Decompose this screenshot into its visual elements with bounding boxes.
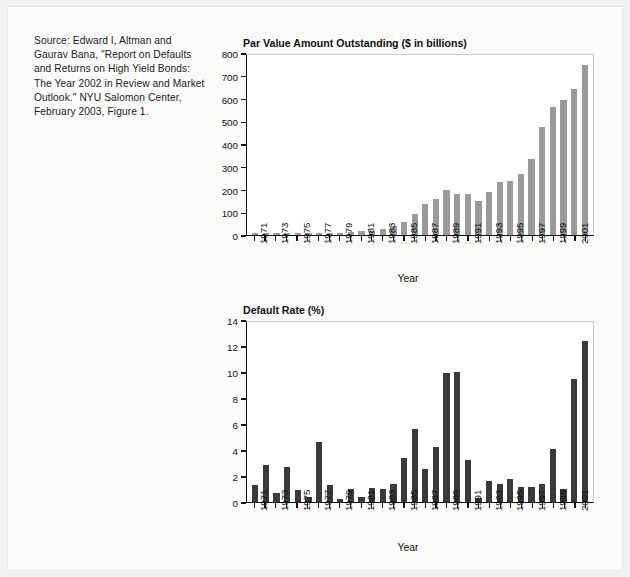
- x-tick-mark: [510, 236, 511, 241]
- x-tick-mark: [286, 503, 287, 508]
- bar-1997: [528, 159, 534, 235]
- bar-slot: [399, 322, 410, 502]
- x-tick-mark: [307, 503, 308, 508]
- bar-slot: [494, 55, 505, 235]
- chart-title-bottom: Default Rate (%): [243, 304, 324, 316]
- bar-slot: [473, 322, 484, 502]
- bar-slot: [441, 55, 452, 235]
- x-tick-mark: [489, 236, 490, 241]
- bar-slot: [282, 322, 293, 502]
- x-tick-mark: [275, 236, 276, 241]
- bar-slot: [473, 55, 484, 235]
- x-tick-mark: [564, 236, 565, 241]
- bar-1991: [465, 460, 471, 502]
- bar-slot: [452, 322, 463, 502]
- x-tick-mark: [500, 503, 501, 508]
- bar-slot: [558, 322, 569, 502]
- x-tick-mark: [382, 236, 383, 241]
- y-tick-mark: [241, 346, 246, 347]
- bar-1993: [486, 192, 492, 235]
- bar-1997: [528, 487, 534, 502]
- y-tick-label: 10: [208, 368, 238, 379]
- bar-1983: [380, 229, 386, 235]
- plot-area-bottom: [246, 321, 594, 503]
- x-tick-mark: [510, 503, 511, 508]
- bar-slot: [378, 55, 389, 235]
- bar-1991: [465, 194, 471, 235]
- bar-slot: [548, 322, 559, 502]
- bar-1995: [507, 479, 513, 502]
- bar-slot: [367, 55, 378, 235]
- bar-slot: [324, 55, 335, 235]
- y-tick-mark: [241, 476, 246, 477]
- bar-1990: [454, 372, 460, 502]
- bar-slot: [303, 55, 314, 235]
- y-tick-mark: [241, 167, 246, 168]
- x-tick-mark: [307, 236, 308, 241]
- x-tick-mark: [478, 236, 479, 241]
- y-tick-mark: [241, 372, 246, 373]
- bar-2000: [560, 100, 566, 235]
- bar-slot: [431, 55, 442, 235]
- bar-slot: [261, 322, 272, 502]
- x-tick-mark: [371, 236, 372, 241]
- bar-1981: [358, 497, 364, 502]
- bar-slot: [250, 322, 261, 502]
- x-tick-mark: [264, 503, 265, 508]
- x-tick-mark: [521, 236, 522, 241]
- bar-slot: [378, 322, 389, 502]
- bar-1985: [401, 222, 407, 235]
- x-tick-mark: [478, 503, 479, 508]
- x-tick-mark: [393, 236, 394, 241]
- bar-slot: [420, 55, 431, 235]
- y-tick-mark: [241, 99, 246, 100]
- x-tick-mark: [275, 503, 276, 508]
- y-tick-mark: [241, 144, 246, 145]
- x-tick-mark: [457, 236, 458, 241]
- bar-2002: [582, 341, 588, 502]
- x-tick-mark: [532, 503, 533, 508]
- bar-slot: [463, 55, 474, 235]
- x-tick-mark: [329, 236, 330, 241]
- bar-slot: [293, 55, 304, 235]
- x-tick-mark: [467, 236, 468, 241]
- bar-2001: [571, 89, 577, 235]
- bar-slot: [409, 55, 420, 235]
- x-tick-mark: [425, 503, 426, 508]
- y-tick-mark: [241, 190, 246, 191]
- bar-1993: [486, 481, 492, 502]
- y-tick-label: 6: [208, 420, 238, 431]
- x-tick-mark: [457, 503, 458, 508]
- bar-1999: [550, 107, 556, 235]
- bar-1987: [422, 204, 428, 235]
- x-tick-mark: [435, 236, 436, 241]
- bar-slot: [282, 55, 293, 235]
- bar-2001: [571, 379, 577, 502]
- bar-1989: [443, 373, 449, 502]
- bar-slot: [516, 55, 527, 235]
- bar-slot: [303, 322, 314, 502]
- x-tick-mark: [489, 503, 490, 508]
- y-tick-mark: [241, 320, 246, 321]
- bar-slot: [484, 55, 495, 235]
- y-tick-mark: [241, 424, 246, 425]
- x-axis-title-top: Year: [208, 273, 608, 284]
- y-tick-mark: [241, 235, 246, 236]
- bar-1983: [380, 489, 386, 502]
- x-axis-title-bottom: Year: [208, 542, 608, 553]
- bar-slot: [261, 55, 272, 235]
- x-tick-mark: [574, 503, 575, 508]
- y-tick-label: 200: [208, 185, 238, 196]
- y-tick-mark: [241, 76, 246, 77]
- x-tick-mark: [585, 236, 586, 241]
- y-tick-mark: [241, 398, 246, 399]
- bar-slot: [271, 55, 282, 235]
- x-tick-mark: [446, 503, 447, 508]
- bar-slot: [548, 55, 559, 235]
- figure-sheet: Source: Edward I, Altman and Gaurav Bana…: [8, 7, 622, 570]
- bar-slot: [558, 55, 569, 235]
- x-tick-mark: [467, 503, 468, 508]
- y-tick-label: 300: [208, 162, 238, 173]
- x-tick-mark: [339, 236, 340, 241]
- bar-slot: [346, 55, 357, 235]
